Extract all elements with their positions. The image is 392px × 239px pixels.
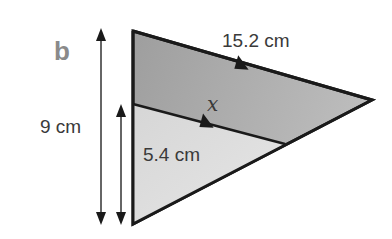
- inner-height-label: 5.4 cm: [143, 144, 200, 166]
- outer-height-arrow-down-icon: [96, 212, 106, 225]
- part-label: b: [54, 36, 70, 67]
- top-side-length: 15.2 cm: [222, 30, 290, 52]
- inner-height-arrow-up-icon: [116, 104, 126, 117]
- unknown-side-label: x: [207, 92, 218, 116]
- outer-height-arrow-up-icon: [96, 28, 106, 41]
- inner-height-arrow-down-icon: [116, 212, 126, 225]
- outer-height-label: 9 cm: [40, 116, 81, 138]
